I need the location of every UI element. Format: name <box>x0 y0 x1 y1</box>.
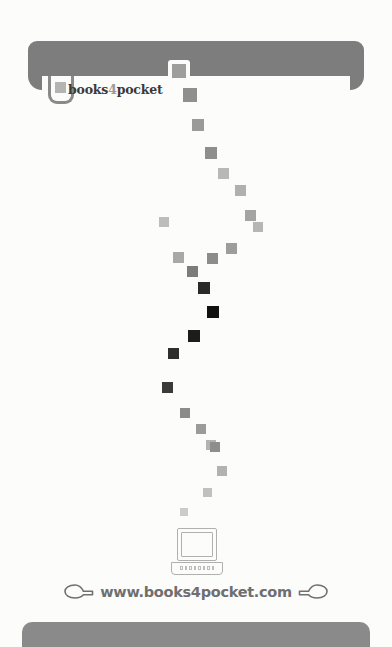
header-bar <box>28 41 364 76</box>
trail-square <box>235 185 246 196</box>
page-canvas: books4pocket www.books4pocket.com <box>0 0 392 647</box>
trail-square <box>205 147 217 159</box>
trail-square <box>196 424 206 434</box>
trail-square <box>253 222 263 232</box>
brand-logo-text-after: pocket <box>117 82 163 97</box>
trail-square <box>162 382 173 393</box>
brand-logo-text: books4pocket <box>68 82 163 97</box>
trail-square <box>187 266 198 277</box>
trail-square <box>217 466 227 476</box>
brand-logo-accent: 4 <box>108 82 117 97</box>
website-url-text[interactable]: www.books4pocket.com <box>100 584 292 600</box>
website-url-line: www.books4pocket.com <box>0 583 392 600</box>
trail-square <box>207 306 219 318</box>
pointing-hand-right-icon <box>64 583 94 600</box>
trail-square <box>168 348 179 359</box>
trail-square <box>192 119 204 131</box>
trail-square <box>180 408 190 418</box>
trail-square <box>203 488 212 497</box>
trail-square <box>180 508 188 516</box>
trail-square <box>188 330 200 342</box>
trail-square <box>245 210 256 221</box>
monitor-screen <box>181 532 213 557</box>
desktop-computer-icon <box>171 528 223 576</box>
trail-square <box>183 88 197 102</box>
footer-bar <box>22 622 370 647</box>
trail-square <box>210 442 220 452</box>
header-flare-right <box>350 76 364 90</box>
keyboard-keys <box>180 566 214 570</box>
header-flare-left <box>28 76 42 90</box>
trail-square <box>198 282 210 294</box>
trail-square <box>218 168 229 179</box>
trail-square <box>207 253 218 264</box>
trail-square <box>159 217 169 227</box>
trail-square <box>226 243 237 254</box>
brand-logo-text-before: books <box>68 82 108 97</box>
logo-tab-square-icon <box>55 82 66 93</box>
trail-square <box>172 64 186 78</box>
trail-square <box>173 252 184 263</box>
pointing-hand-left-icon <box>298 583 328 600</box>
